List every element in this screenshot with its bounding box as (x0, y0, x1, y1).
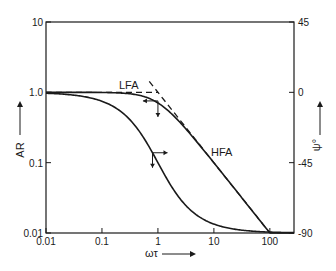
y2-axis-ticks: 450-45-90 (289, 17, 313, 239)
phase-curve (46, 93, 294, 232)
x-axis-arrow-icon (162, 251, 196, 257)
y2-tick-label: -45 (298, 158, 313, 169)
y-tick-label: 1.0 (29, 87, 43, 98)
hfa-label: HFA (211, 146, 233, 158)
ar-curve (46, 92, 294, 233)
y2-tick-label: 0 (298, 87, 304, 98)
y-axis-label: AR (14, 142, 26, 157)
x-tick-label: 0.1 (95, 236, 109, 247)
y-tick-label: 0.1 (29, 158, 43, 169)
y-axis-ticks: 101.00.10.01 (24, 17, 51, 239)
y-tick-label: 0.01 (24, 228, 44, 239)
data-curves (46, 81, 294, 233)
x-tick-label: 100 (262, 236, 279, 247)
x-axis-label: ωτ (145, 247, 158, 259)
bode-plot: 0.010.1110100 101.00.10.01 450-45-90 LFA… (0, 0, 336, 271)
lfa-label: LFA (119, 79, 139, 91)
y2-tick-label: -90 (298, 228, 313, 239)
plot-frame (46, 22, 294, 233)
y2-axis-arrow-icon (317, 101, 323, 135)
y2-axis-label: ψ° (310, 139, 322, 151)
y-axis-arrow-icon (17, 101, 23, 135)
y-tick-label: 10 (32, 17, 44, 28)
plot-border (46, 22, 294, 233)
phase-marker-right-arrow-icon (153, 150, 168, 155)
x-tick-label: 1 (155, 236, 161, 247)
y2-tick-label: 45 (298, 17, 310, 28)
x-tick-label: 10 (208, 236, 220, 247)
